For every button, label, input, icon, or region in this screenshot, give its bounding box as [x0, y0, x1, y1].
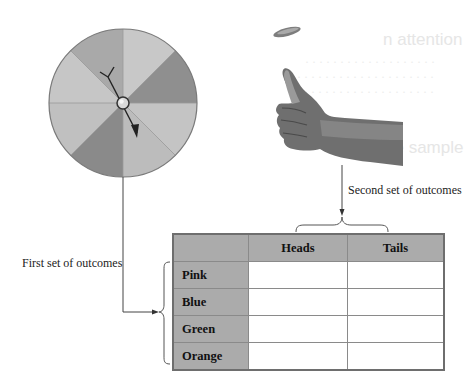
- table-row: Blue: [173, 289, 444, 316]
- table-row: Pink: [173, 262, 444, 289]
- cell-orange-heads: [249, 343, 348, 371]
- column-header-tails: Tails: [348, 234, 445, 262]
- outcomes-table: Heads Tails Pink Blue Green Orange: [172, 233, 445, 371]
- first-set-arrowhead-icon: [152, 310, 159, 315]
- first-set-connector: [123, 177, 155, 312]
- first-set-label: First set of outcomes: [22, 256, 122, 271]
- second-set-arrowhead-icon: [340, 209, 345, 216]
- cell-green-heads: [249, 316, 348, 343]
- table-row: Orange: [173, 343, 444, 371]
- cell-blue-heads: [249, 289, 348, 316]
- cell-pink-tails: [348, 262, 445, 289]
- row-header-blue: Blue: [173, 289, 249, 316]
- table-corner-cell: [173, 234, 249, 262]
- second-set-brace-icon: [296, 217, 388, 232]
- row-header-orange: Orange: [173, 343, 249, 371]
- cell-blue-tails: [348, 289, 445, 316]
- table-row: Green: [173, 316, 444, 343]
- cell-pink-heads: [249, 262, 348, 289]
- row-header-pink: Pink: [173, 262, 249, 289]
- first-set-brace-icon: [159, 262, 170, 364]
- row-header-green: Green: [173, 316, 249, 343]
- thumbs-up-hand-icon: [276, 68, 403, 166]
- cell-orange-tails: [348, 343, 445, 371]
- second-set-label: Second set of outcomes: [348, 183, 462, 198]
- table-header-row: Heads Tails: [173, 234, 444, 262]
- cell-green-tails: [348, 316, 445, 343]
- column-header-heads: Heads: [249, 234, 348, 262]
